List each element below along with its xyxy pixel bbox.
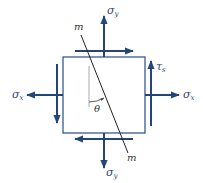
theta-label: θ [94, 104, 100, 114]
sigma-x-right-label: σx [183, 89, 194, 102]
sigma-y-top-label: σy [107, 5, 118, 18]
m-top-label: m [74, 22, 83, 32]
stress-element-square [63, 57, 145, 133]
stress-element-diagram [0, 0, 203, 183]
sigma-y-bottom-label: σy [106, 167, 117, 180]
m-bottom-label: m [127, 153, 136, 163]
theta-arc [89, 98, 104, 102]
tau-label: τs [156, 61, 166, 74]
sigma-x-left-label: σx [12, 89, 23, 102]
